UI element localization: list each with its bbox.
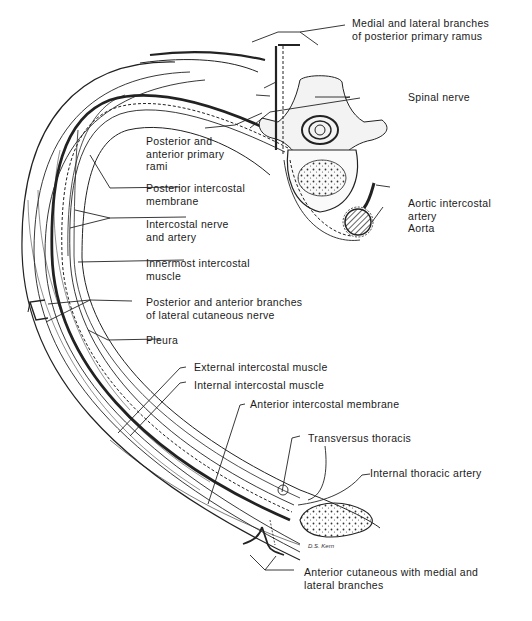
label-posterior-intercostal-membrane: Posterior intercostal membrane [146,182,245,207]
artist-signature: D.S. Kern [308,543,334,549]
label-innermost-intercostal: Innermost intercostal muscle [146,257,250,282]
label-transversus-thoracis: Transversus thoracis [308,432,411,445]
label-posterior-anterior-rami: Posterior and anterior primary rami [146,135,224,173]
label-anterior-intercostal-membrane: Anterior intercostal membrane [250,398,399,411]
sternum [278,485,372,537]
label-external-intercostal: External intercostal muscle [194,361,328,374]
vertebra [259,76,387,212]
label-intercostal-nerve-artery: Intercostal nerve and artery [146,218,229,243]
label-anterior-cutaneous: Anterior cutaneous with medial and later… [304,566,478,591]
label-medial-lateral-branches: Medial and lateral branches of posterior… [352,17,489,42]
label-aortic-intercostal-artery: Aortic intercostal artery [408,197,491,222]
label-pleura: Pleura [146,334,178,347]
label-spinal-nerve: Spinal nerve [408,91,470,104]
label-aorta: Aorta [408,222,435,235]
label-lateral-cutaneous-branches: Posterior and anterior branches of later… [146,296,302,321]
label-internal-intercostal: Internal intercostal muscle [194,379,324,392]
label-internal-thoracic-artery: Internal thoracic artery [370,467,482,480]
